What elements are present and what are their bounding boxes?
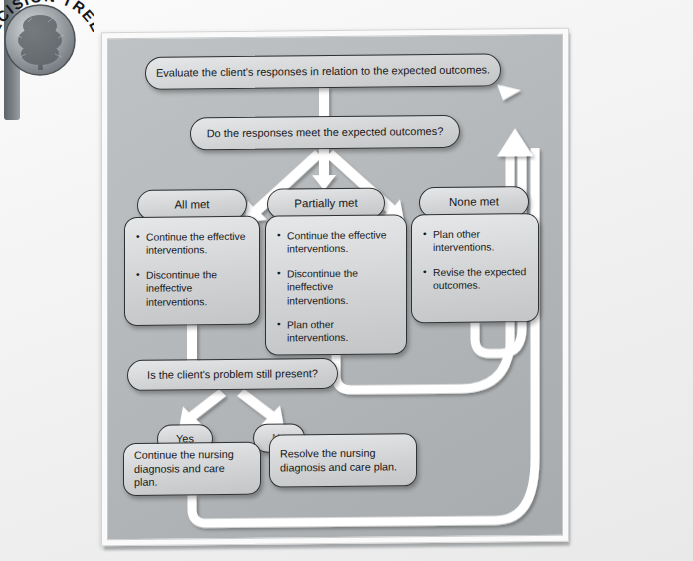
node-question-outcomes-met[interactable]: Do the responses meet the expected outco… <box>190 115 460 151</box>
node-evaluate-responses[interactable]: Evaluate the client's responses in relat… <box>145 53 501 89</box>
arrow-question2-to-no <box>237 388 284 427</box>
actions-none-met: Plan other interventions. Revise the exp… <box>411 213 539 323</box>
list-item: Revise the expected outcomes. <box>423 265 529 293</box>
arrow-question2-to-yes <box>179 389 226 428</box>
node-continue-care-plan-label: Continue the nursing diagnosis and care … <box>134 448 250 491</box>
list-item: Continue the effective interventions. <box>136 230 250 258</box>
node-continue-care-plan[interactable]: Continue the nursing diagnosis and care … <box>123 442 261 496</box>
decision-tree-badge: DECISION TREE <box>0 0 94 92</box>
connector-continueplan-loop <box>192 492 496 523</box>
node-question-problem-present[interactable]: Is the client's problem still present? <box>127 358 338 391</box>
actions-all-met: Continue the effective interventions. Di… <box>124 216 260 326</box>
list-item: Plan other interventions. <box>277 317 397 345</box>
node-question2-label: Is the client's problem still present? <box>147 367 318 383</box>
list-item: Discontinue the ineffective intervention… <box>136 268 250 309</box>
actions-partially-met: Continue the effective interventions. Di… <box>265 214 407 355</box>
list-item: Continue the effective interventions. <box>277 228 397 256</box>
node-all-met-label: All met <box>174 197 209 212</box>
tree-badge-icon: DECISION TREE <box>0 0 94 92</box>
node-partially-met-label: Partially met <box>294 196 357 211</box>
actions-partially-met-list: Continue the effective interventions. Di… <box>266 215 406 355</box>
node-resolve-care-plan-label: Resolve the nursing diagnosis and care p… <box>280 446 406 475</box>
flowchart: Evaluate the client's responses in relat… <box>101 28 567 544</box>
actions-none-met-list: Plan other interventions. Revise the exp… <box>412 214 538 303</box>
connector-evaluate-to-question1 <box>319 87 329 117</box>
actions-all-met-list: Continue the effective interventions. Di… <box>125 217 259 319</box>
arrowhead-loop-tip <box>497 84 521 100</box>
node-question1-label: Do the responses meet the expected outco… <box>207 124 444 140</box>
list-item: Plan other interventions. <box>423 227 529 255</box>
diagram-canvas: Evaluate the client's responses in relat… <box>0 0 693 561</box>
list-item: Discontinue the ineffective intervention… <box>277 266 397 307</box>
arrow-question1-to-partially <box>312 164 336 190</box>
node-resolve-care-plan[interactable]: Resolve the nursing diagnosis and care p… <box>269 433 417 487</box>
node-none-met-label: None met <box>449 195 499 210</box>
arrowhead-loop-to-evaluate <box>497 128 533 156</box>
node-evaluate-label: Evaluate the client's responses in relat… <box>156 63 490 80</box>
connector-allmet-to-question2 <box>187 323 197 361</box>
connector-partiallymet-loop <box>336 354 461 390</box>
connector-nonemet-loop <box>475 322 501 353</box>
